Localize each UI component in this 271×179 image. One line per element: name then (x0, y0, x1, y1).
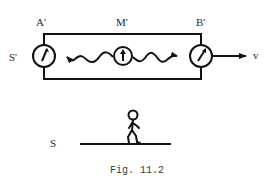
rest-frame-label: S (50, 138, 56, 149)
figure-caption: Fig. 11.2 (110, 166, 164, 176)
point-b-label: B' (196, 17, 205, 28)
clock-b-icon (190, 45, 212, 67)
velocity-label: v (253, 50, 259, 61)
moving-frame-label: S' (9, 52, 17, 63)
light-signal-left-icon (67, 52, 113, 62)
clock-m-icon (114, 47, 132, 65)
observer-stick-figure-icon (128, 111, 140, 144)
figure-11-2: A' M' B' S' v S Fig. 11.2 (0, 0, 271, 179)
clock-a-icon (33, 45, 55, 67)
point-a-label: A' (36, 17, 46, 28)
point-m-label: M' (116, 17, 128, 28)
light-signal-right-icon (133, 53, 177, 62)
